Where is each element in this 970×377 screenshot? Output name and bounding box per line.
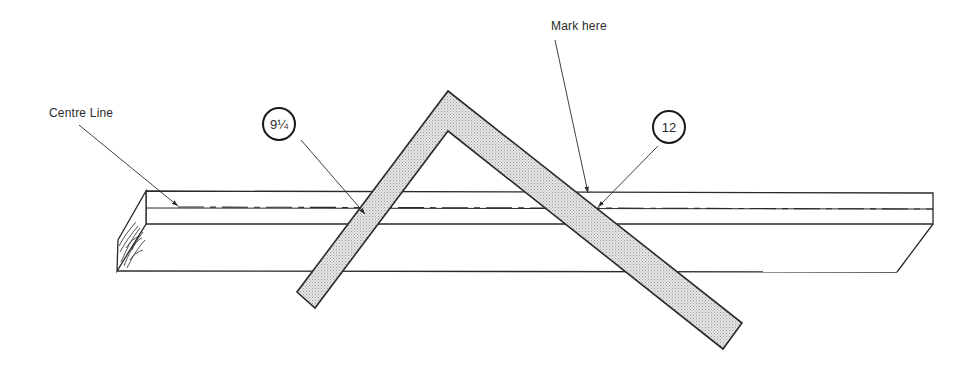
diagram-canvas — [0, 0, 970, 377]
right-measure-leader — [598, 146, 658, 207]
board-bottom-edge — [117, 271, 897, 272]
board-right-edge — [897, 224, 933, 272]
right-measure-value: 12 — [662, 120, 676, 135]
centre-line-label: Centre Line — [49, 106, 113, 120]
mark-here-leader — [555, 40, 588, 193]
right-measure-callout: 12 — [652, 110, 686, 144]
left-measure-value: 9¼ — [270, 117, 288, 132]
left-measure-callout: 9¼ — [262, 107, 296, 141]
mark-here-label: Mark here — [551, 19, 607, 33]
timber-board — [117, 191, 933, 272]
left-measure-leader — [301, 140, 365, 214]
centre-line-leader — [79, 125, 178, 206]
